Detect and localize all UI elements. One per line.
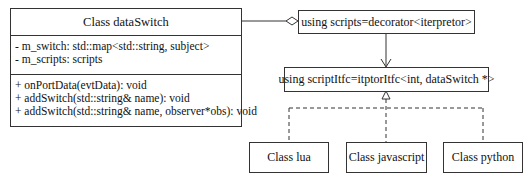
attribute: - m_switch: std::map<std::string, subjec… (11, 40, 241, 53)
scripts-box: using scripts=decorator<iterpretor> (298, 10, 475, 34)
method: + onPortData(evtData): void (11, 79, 241, 92)
class-javascript: Class javascript (346, 142, 427, 173)
javascript-label: Class javascript (349, 150, 425, 165)
attribute: - m_scripts: scripts (11, 53, 241, 66)
attributes-section: - m_switch: std::map<std::string, subjec… (11, 35, 241, 74)
lua-label: Class lua (267, 150, 311, 165)
itfc-label: using scriptItfc=itptorItfc<int, dataSwi… (278, 72, 494, 87)
method: + addSwitch(std::string& name, observer*… (11, 105, 241, 118)
aggregation-diamond-icon (286, 17, 298, 25)
method: + addSwitch(std::string& name): void (11, 92, 241, 105)
methods-section: + onPortData(evtData): void + addSwitch(… (11, 74, 241, 126)
class-title: Class dataSwitch (11, 9, 241, 35)
script-itfc-box: using scriptItfc=itptorItfc<int, dataSwi… (284, 67, 489, 92)
python-label: Class python (452, 150, 514, 165)
realization-triangle-icon (382, 91, 390, 99)
class-python: Class python (443, 142, 523, 173)
scripts-label: using scripts=decorator<iterpretor> (301, 15, 472, 30)
class-lua: Class lua (249, 142, 329, 173)
class-dataswitch: Class dataSwitch - m_switch: std::map<st… (10, 8, 242, 127)
